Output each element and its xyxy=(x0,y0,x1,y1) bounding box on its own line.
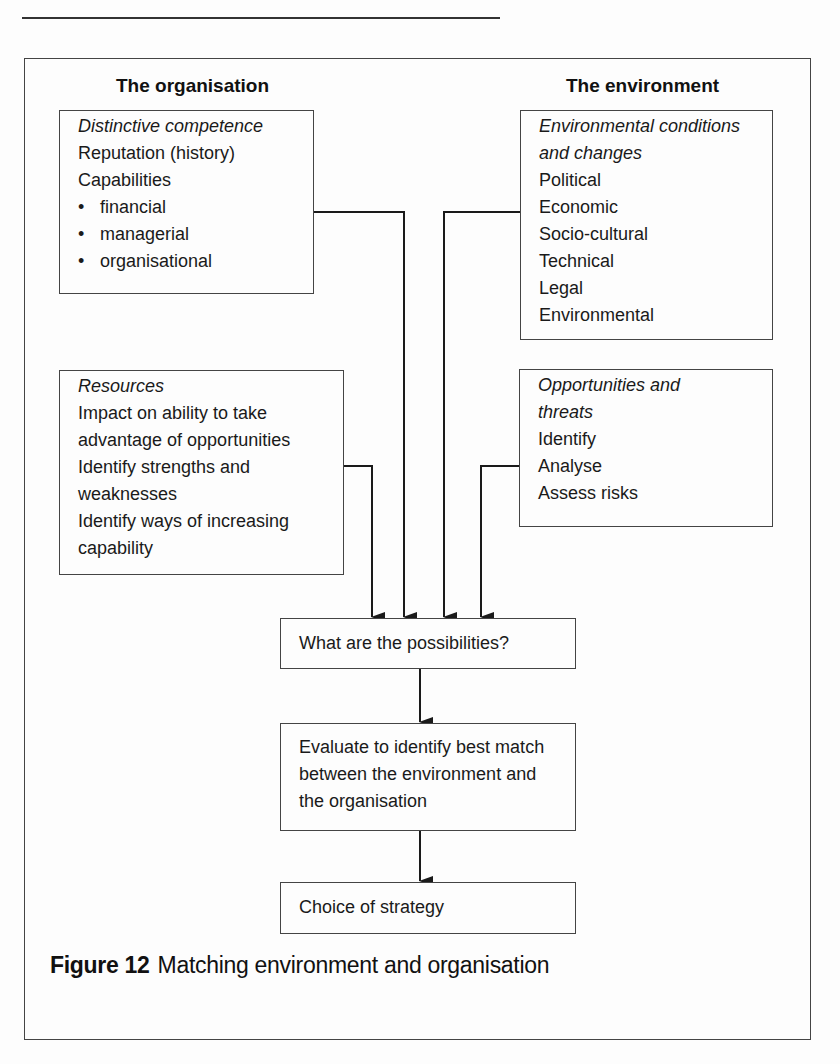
box-choice-of-strategy: Choice of strategy xyxy=(280,882,576,934)
figure-label: Figure 12 xyxy=(50,952,150,978)
box-line: the organisation xyxy=(299,788,557,815)
box-line: Choice of strategy xyxy=(299,893,557,921)
box-evaluate: Evaluate to identify best match between … xyxy=(280,723,576,831)
box-line: What are the possibilities? xyxy=(299,629,557,657)
box-possibilities: What are the possibilities? xyxy=(280,618,576,669)
box-line: between the environment and xyxy=(299,761,557,788)
figure-caption: Figure 12Matching environment and organi… xyxy=(50,952,549,979)
box-line: Evaluate to identify best match xyxy=(299,734,557,761)
caption-text: Matching environment and organisation xyxy=(158,952,550,978)
